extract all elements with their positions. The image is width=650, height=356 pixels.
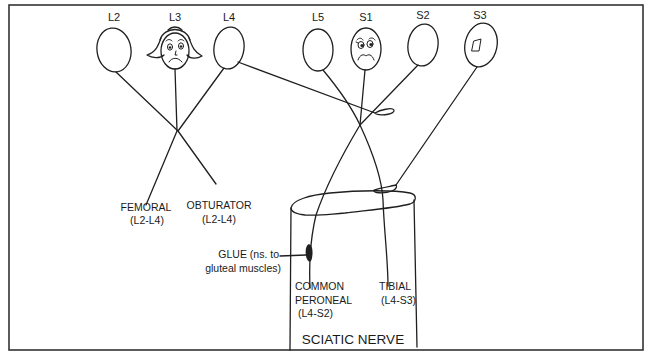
lumbosacral-plexus-diagram: L2 L3 L4 L5 S1 S2 S3 xyxy=(0,0,650,356)
common-peroneal-label-line1: COMMON xyxy=(295,280,344,292)
root-label-l5: L5 xyxy=(312,11,324,23)
glue-label-line1: GLUE (ns. to xyxy=(218,248,279,260)
root-label-l3: L3 xyxy=(169,11,181,23)
root-label-l2: L2 xyxy=(108,11,120,23)
balloon-s1-worried-face-icon xyxy=(351,28,381,125)
balloon-l4 xyxy=(178,25,394,131)
common-peroneal-label-line2: PERONEAL xyxy=(295,294,352,306)
common-peroneal-roots: (L4-S2) xyxy=(298,307,333,319)
balloon-s2 xyxy=(310,22,441,288)
root-label-s2: S2 xyxy=(416,9,429,21)
obturator-roots: (L2-L4) xyxy=(202,213,236,225)
femoral-roots: (L2-L4) xyxy=(130,214,164,226)
glue-label-line2: gluteal muscles) xyxy=(205,262,281,274)
balloon-l5 xyxy=(303,29,388,286)
root-label-s1: S1 xyxy=(359,11,372,23)
root-label-l4: L4 xyxy=(223,11,235,23)
sciatic-nerve-label: SCIATIC NERVE xyxy=(302,332,404,347)
tibial-roots: (L4-S3) xyxy=(381,294,416,306)
root-label-s3: S3 xyxy=(473,9,486,21)
obturator-label: OBTURATOR xyxy=(187,199,252,211)
tibial-label: TIBIAL xyxy=(379,280,411,292)
femoral-label: FEMORAL xyxy=(121,201,172,213)
balloon-l3-worried-face-icon xyxy=(146,27,202,205)
glue-marker xyxy=(280,244,313,262)
